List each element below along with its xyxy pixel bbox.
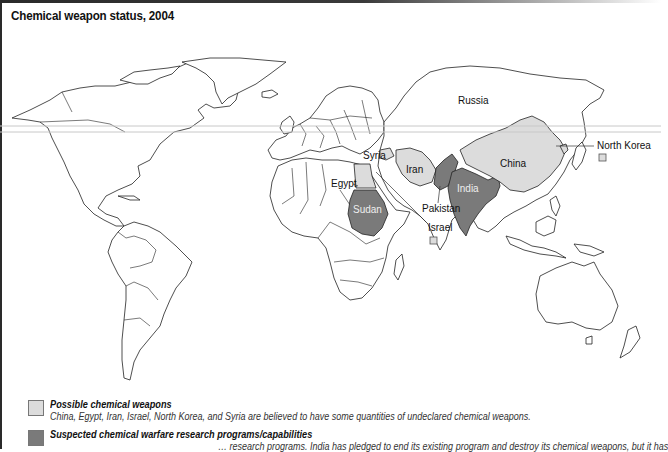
australia bbox=[536, 262, 618, 330]
label-israel: Israel bbox=[428, 222, 452, 233]
iceland bbox=[262, 90, 278, 98]
north-america bbox=[12, 62, 238, 226]
label-india: India bbox=[457, 183, 479, 194]
label-north-korea: North Korea bbox=[597, 140, 651, 151]
legend-title-possible: Possible chemical weapons bbox=[50, 399, 172, 410]
legend-swatch-suspected bbox=[28, 430, 44, 446]
label-russia: Russia bbox=[458, 95, 489, 106]
madagascar bbox=[394, 254, 404, 280]
israel-marker bbox=[430, 237, 437, 244]
label-pakistan: Pakistan bbox=[422, 203, 460, 214]
tasmania bbox=[586, 336, 592, 344]
label-syria: Syria bbox=[363, 150, 386, 161]
new-zealand bbox=[620, 326, 640, 358]
legend-desc-suspected: … research programs. India has pledged t… bbox=[218, 441, 668, 452]
borneo bbox=[536, 216, 556, 236]
north-korea-marker bbox=[599, 154, 606, 161]
legend-swatch-possible bbox=[28, 400, 44, 416]
label-iran: Iran bbox=[406, 164, 423, 175]
label-sudan: Sudan bbox=[353, 204, 382, 215]
label-china: China bbox=[500, 158, 527, 169]
south-america bbox=[108, 222, 192, 380]
indonesia bbox=[506, 236, 566, 258]
legend-desc-possible: China, Egypt, Iran, Israel, North Korea,… bbox=[50, 411, 531, 422]
new-guinea bbox=[574, 244, 604, 256]
legend-title-suspected: Suspected chemical warfare research prog… bbox=[50, 429, 312, 440]
uk bbox=[280, 116, 294, 134]
philippines bbox=[550, 196, 560, 216]
label-egypt: Egypt bbox=[331, 178, 357, 189]
egypt-region bbox=[354, 164, 376, 188]
cuba bbox=[118, 196, 140, 200]
